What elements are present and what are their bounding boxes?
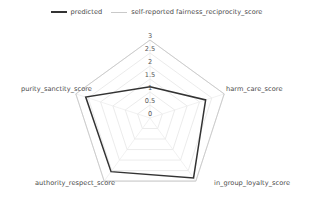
radar-plot-area — [0, 0, 313, 198]
radial-tick-0: 0 — [148, 110, 152, 118]
axis-label-authority-respect-score: authority_respect_score — [35, 179, 115, 187]
radar-chart: predicted self-reported fairness_recipro… — [0, 0, 313, 198]
axis-label-purity-sanctity-score: purity_sanctity_score — [21, 85, 92, 93]
radial-tick-3: 3 — [148, 32, 152, 40]
radial-tick-2: 2 — [148, 58, 152, 66]
radial-tick-0-5: 0.5 — [145, 97, 156, 105]
axis-spoke — [150, 94, 224, 118]
radial-tick-1-5: 1.5 — [145, 71, 156, 79]
axis-label-harm-care-score: harm_care_score — [226, 85, 283, 93]
axis-label-in-group-loyalty-score: in_group_loyalty_score — [214, 179, 290, 187]
radial-tick-2-5: 2.5 — [145, 45, 156, 53]
radial-tick-1: 1 — [148, 84, 152, 92]
